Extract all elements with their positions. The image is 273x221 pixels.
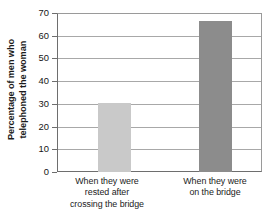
category-label-2-line-2: on the bridge — [160, 187, 270, 198]
bar-chart: Percentage of men who telephoned the wom… — [0, 0, 273, 221]
y-tick-label-30: 30 — [9, 99, 49, 109]
y-tick-label-20: 20 — [9, 122, 49, 132]
category-label-1-line-2: rested after — [52, 187, 162, 198]
plot-area — [57, 13, 262, 172]
y-tick-label-0: 0 — [9, 167, 49, 177]
bar-on-the-bridge[interactable] — [199, 21, 232, 172]
category-label-rested-after-crossing: When they were rested after crossing the… — [52, 176, 162, 210]
category-label-1-line-1: When they were — [52, 176, 162, 187]
y-tick-label-40: 40 — [9, 76, 49, 86]
y-tick-mark-0 — [52, 172, 57, 173]
y-tick-label-50: 50 — [9, 53, 49, 63]
y-tick-label-60: 60 — [9, 31, 49, 41]
category-label-1-line-3: crossing the bridge — [52, 199, 162, 210]
y-tick-label-70: 70 — [9, 8, 49, 18]
bar-rested-after-crossing[interactable] — [98, 103, 131, 172]
y-tick-label-10: 10 — [9, 144, 49, 154]
category-label-on-the-bridge: When they were on the bridge — [160, 176, 270, 199]
category-label-2-line-1: When they were — [160, 176, 270, 187]
